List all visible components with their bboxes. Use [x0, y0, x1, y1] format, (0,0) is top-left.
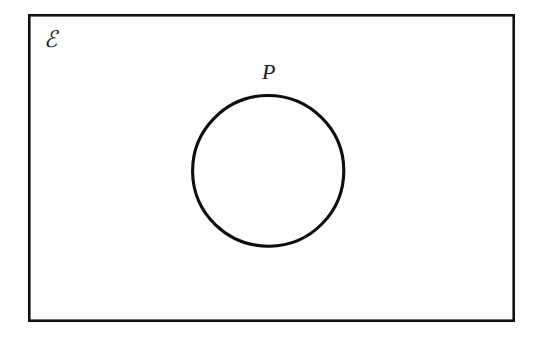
venn-diagram-figure: P ℰ	[0, 0, 537, 342]
venn-diagram-canvas	[0, 0, 537, 342]
universal-set-label: ℰ	[44, 26, 57, 52]
set-p-label: P	[262, 59, 276, 85]
